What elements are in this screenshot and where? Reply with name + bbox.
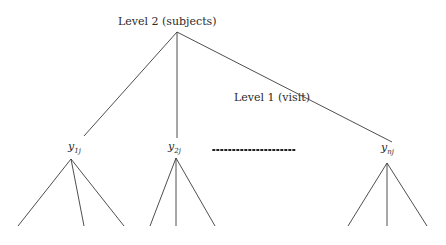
leaf-edge-ynj-1 xyxy=(348,163,387,226)
level1-node-labels: y1jy2jynj xyxy=(67,140,395,156)
edge-root-to-y1j xyxy=(84,32,177,136)
leaf-edge-y1j-2 xyxy=(71,159,84,226)
leaf-edge-y1j-1 xyxy=(18,159,71,226)
edge-root-to-ynj xyxy=(177,32,392,142)
node-label-subscript: 2j xyxy=(173,147,181,155)
hierarchy-diagram: Level 2 (subjects) Level 1 (visit) y1jy2… xyxy=(0,0,446,245)
node-label-y2j: y2j xyxy=(167,140,182,155)
node-label-subscript: 1j xyxy=(74,147,81,155)
level1-label: Level 1 (visit) xyxy=(234,91,310,104)
leaf-edge-y2j-1 xyxy=(150,158,176,226)
node-label-ynj: ynj xyxy=(380,141,395,156)
leaf-edge-y1j-3 xyxy=(71,159,124,226)
leaf-edge-ynj-3 xyxy=(387,163,427,226)
level2-edges xyxy=(84,32,392,142)
level2-label: Level 2 (subjects) xyxy=(118,15,217,28)
node-label-subscript: nj xyxy=(387,148,395,156)
level1-leaf-edges xyxy=(18,158,427,226)
leaf-edge-y2j-3 xyxy=(176,158,215,226)
node-label-y1j: y1j xyxy=(67,140,82,155)
